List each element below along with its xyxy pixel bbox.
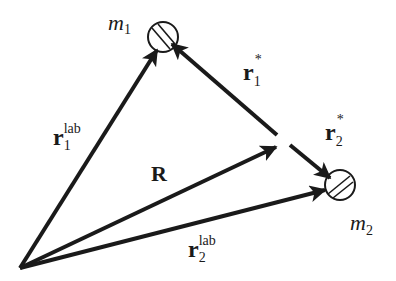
label-m2: m2: [350, 210, 373, 238]
mass-m2: [325, 170, 355, 200]
vector-r2-star: [290, 145, 330, 178]
label-r2-lab: r2lab: [188, 233, 216, 265]
vector-r2-lab: [20, 190, 325, 268]
label-m1: m1: [108, 10, 131, 37]
label-r1-lab: r1lab: [53, 121, 81, 153]
label-r2-star: r2*: [325, 112, 344, 149]
label-r1-star: r1*: [243, 52, 262, 89]
label-R: R: [151, 161, 168, 186]
two-body-vector-diagram: m1 m2 r1lab R r2lab r1* r2*: [0, 0, 396, 281]
